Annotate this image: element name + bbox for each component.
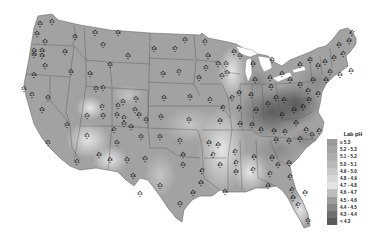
- station-dot-icon: [351, 35, 352, 36]
- legend-item: 4.6 - 4.7: [327, 189, 385, 196]
- station-value: 4.6: [337, 43, 342, 47]
- station-dot-icon: [127, 58, 128, 59]
- station-value: 4.5: [304, 128, 309, 132]
- legend-label: 4.6 - 4.7: [340, 190, 357, 195]
- station-value: 4.8: [287, 161, 292, 165]
- station-dot-icon: [140, 139, 141, 140]
- station-dot-icon: [318, 133, 319, 134]
- station-value: 5.7: [173, 47, 178, 51]
- station-dot-icon: [273, 133, 274, 134]
- station-value: 4.7: [296, 203, 301, 207]
- station-dot-icon: [113, 132, 114, 133]
- legend-item: 4.9 - 5.0: [327, 168, 385, 175]
- station-dot-icon: [307, 93, 308, 94]
- station-dot-icon: [189, 99, 190, 100]
- station-dot-icon: [239, 126, 240, 127]
- station-dot-icon: [338, 47, 339, 48]
- legend-label: 4.3 - 4.4: [340, 212, 357, 217]
- station-dot-icon: [271, 62, 272, 63]
- station-dot-icon: [317, 96, 318, 97]
- station-value: 5.4: [63, 50, 68, 54]
- station-dot-icon: [179, 143, 180, 144]
- station-dot-icon: [299, 141, 300, 142]
- station-value: 5.3: [158, 184, 163, 188]
- station-dot-icon: [31, 97, 32, 98]
- station-value: 4.4: [274, 138, 279, 142]
- station-value: 5.4: [88, 72, 93, 76]
- station-value: 5.4: [152, 47, 157, 51]
- station-value: 4.6: [287, 139, 292, 143]
- station-dot-icon: [139, 196, 140, 197]
- station-value: 5.0: [115, 141, 120, 145]
- station-dot-icon: [312, 82, 313, 83]
- station-dot-icon: [234, 154, 235, 155]
- station-dot-icon: [308, 102, 309, 103]
- station-dot-icon: [74, 39, 75, 40]
- station-value: 4.7: [211, 153, 216, 157]
- station-dot-icon: [102, 47, 103, 48]
- station-value: 5.5: [183, 38, 188, 42]
- station-value: 4.4: [272, 129, 277, 133]
- station-dot-icon: [288, 165, 289, 166]
- station-dot-icon: [275, 142, 276, 143]
- station-value: 4.2: [307, 98, 312, 102]
- station-dot-icon: [182, 157, 183, 158]
- station-value: 4.9: [218, 163, 223, 167]
- station-dot-icon: [222, 110, 223, 111]
- station-dot-icon: [39, 26, 40, 27]
- station-value: 5.0: [310, 133, 315, 137]
- station-dot-icon: [76, 164, 77, 165]
- station-dot-icon: [200, 185, 201, 186]
- station-dot-icon: [224, 194, 225, 195]
- station-dot-icon: [329, 74, 330, 75]
- station-value: 5.6: [134, 97, 139, 101]
- station-value: 4.3: [266, 102, 271, 106]
- station-value: 5.4: [32, 53, 37, 57]
- station-dot-icon: [238, 110, 239, 111]
- station-dot-icon: [305, 132, 306, 133]
- station-value: 4.6: [252, 155, 257, 159]
- station-value: 5.0: [115, 113, 120, 117]
- station-dot-icon: [94, 35, 95, 36]
- station-value: 4.5: [249, 93, 254, 97]
- station-dot-icon: [219, 123, 220, 124]
- station-dot-icon: [235, 165, 236, 166]
- station-value: 5.5: [126, 54, 131, 58]
- station-value: 5.4: [129, 125, 134, 129]
- station-value: 4.5: [270, 58, 275, 62]
- station-dot-icon: [208, 145, 209, 146]
- station-value: 5.3: [122, 122, 127, 126]
- station-dot-icon: [225, 66, 226, 67]
- legend-label: 4.7 - 4.8: [340, 183, 357, 188]
- station-dot-icon: [309, 62, 310, 63]
- station-dot-icon: [44, 68, 45, 69]
- station-dot-icon: [277, 167, 278, 168]
- station-value: 4.6: [276, 163, 281, 167]
- station-value: 4.3: [298, 83, 303, 87]
- station-value: 4.8: [266, 184, 271, 188]
- station-dot-icon: [159, 188, 160, 189]
- station-value: 5.6: [65, 123, 70, 127]
- station-dot-icon: [47, 145, 48, 146]
- station-dot-icon: [138, 117, 139, 118]
- station-dot-icon: [288, 143, 289, 144]
- legend-item: 4.5 - 4.6: [327, 197, 385, 204]
- station-value: 4.8: [291, 196, 296, 200]
- station-dot-icon: [291, 192, 292, 193]
- station-value: 4.3: [306, 89, 311, 93]
- legend: Lab pH ≥ 5.35.2 - 5.35.1 - 5.25.0 - 5.14…: [327, 131, 385, 225]
- station-dot-icon: [302, 109, 303, 110]
- station-value: 4.7: [268, 172, 273, 176]
- station-value: 4.7: [341, 52, 346, 56]
- station-dot-icon: [251, 127, 252, 128]
- station-value: 5.0: [181, 163, 186, 167]
- station-value: 4.8: [199, 181, 204, 185]
- station: 5.5: [138, 191, 143, 198]
- station-dot-icon: [253, 159, 254, 160]
- station-value: 5.1: [85, 134, 90, 138]
- station-dot-icon: [122, 104, 123, 105]
- station-dot-icon: [117, 108, 118, 109]
- station-value: 4.5: [308, 58, 313, 62]
- station-value: 5.3: [225, 71, 230, 75]
- station-dot-icon: [109, 162, 110, 163]
